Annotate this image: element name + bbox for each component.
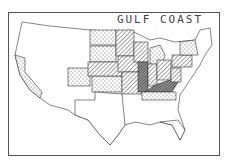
state-nd <box>90 30 116 45</box>
state-il <box>138 62 148 92</box>
state-ne <box>88 62 122 76</box>
state-oh <box>157 60 171 80</box>
state-co <box>68 68 90 86</box>
state-mn <box>116 30 134 56</box>
state-ny <box>180 40 198 55</box>
state-pa <box>172 55 192 67</box>
state-in <box>148 64 157 86</box>
state-ks <box>92 76 122 92</box>
us-map <box>0 0 225 162</box>
state-wi <box>134 42 148 62</box>
state-tx <box>75 92 125 145</box>
state-wv <box>171 68 181 82</box>
state-tn <box>142 92 176 100</box>
state-sd <box>90 46 116 62</box>
